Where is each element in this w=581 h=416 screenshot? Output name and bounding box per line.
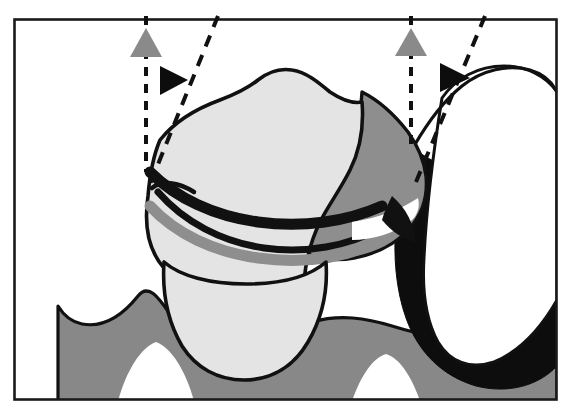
adjacent-tooth: [424, 66, 557, 365]
figure-root: 156: [0, 0, 581, 416]
anatomical-figure: [0, 0, 581, 416]
